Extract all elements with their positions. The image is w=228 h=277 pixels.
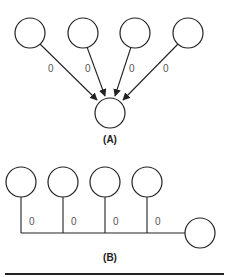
node-a-source-4 bbox=[173, 18, 203, 48]
edge-label-b-3: 0 bbox=[113, 216, 119, 227]
node-a-source-3 bbox=[120, 18, 150, 48]
diagram-canvas: 0 0 0 0 (A) 0 0 0 0 (B) bbox=[0, 0, 228, 277]
node-a-source-2 bbox=[68, 18, 98, 48]
caption-b: (B) bbox=[103, 252, 117, 263]
caption-a: (A) bbox=[103, 134, 117, 145]
edge-label-a-4: 0 bbox=[163, 63, 169, 74]
edge-label-a-3: 0 bbox=[129, 63, 135, 74]
node-a-source-1 bbox=[15, 18, 45, 48]
diagram-b: 0 0 0 0 (B) bbox=[6, 167, 215, 263]
node-b-source-4 bbox=[132, 167, 162, 197]
edge-label-b-1: 0 bbox=[29, 216, 35, 227]
diagram-a: 0 0 0 0 (A) bbox=[15, 18, 203, 145]
edge-label-a-1: 0 bbox=[48, 63, 54, 74]
node-b-source-1 bbox=[6, 167, 36, 197]
node-b-target bbox=[185, 218, 215, 248]
node-b-source-3 bbox=[90, 167, 120, 197]
edge-label-b-4: 0 bbox=[155, 216, 161, 227]
edge-label-a-2: 0 bbox=[85, 63, 91, 74]
edge-label-b-2: 0 bbox=[71, 216, 77, 227]
node-a-target bbox=[95, 98, 125, 128]
node-b-source-2 bbox=[48, 167, 78, 197]
